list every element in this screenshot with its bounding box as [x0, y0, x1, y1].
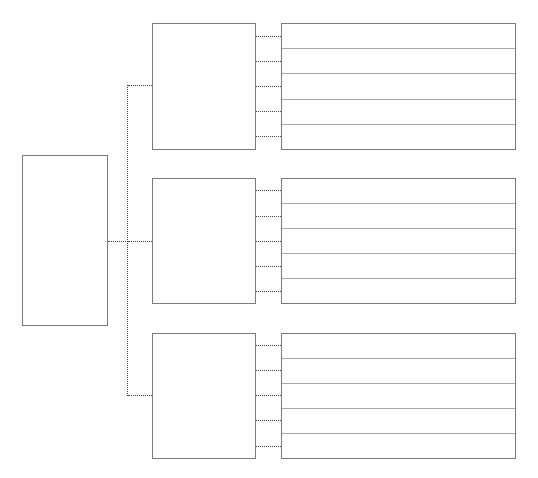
leaf-connector — [256, 266, 281, 267]
root-node — [22, 155, 108, 326]
leaf-row — [282, 384, 515, 409]
leaf-connector — [256, 345, 281, 346]
leaf-connector — [256, 370, 281, 371]
leaf-connector — [256, 111, 281, 112]
leaf-connector — [256, 86, 281, 87]
leaf-connector — [256, 36, 281, 37]
leaf-row — [282, 24, 515, 49]
leaf-row — [282, 125, 515, 149]
leaf-panel-1 — [281, 23, 516, 150]
leaf-panel-2 — [281, 178, 516, 304]
leaf-connector — [256, 291, 281, 292]
leaf-connector — [256, 216, 281, 217]
leaf-row — [282, 334, 515, 359]
leaf-connector — [256, 190, 281, 191]
branch-connector-2 — [128, 241, 152, 242]
root-connector — [108, 241, 128, 242]
leaf-connector — [256, 446, 281, 447]
leaf-connector — [256, 420, 281, 421]
leaf-row — [282, 359, 515, 384]
leaf-row — [282, 279, 515, 303]
branch-node-1 — [152, 23, 256, 150]
leaf-row — [282, 100, 515, 125]
branch-connector-3 — [128, 395, 152, 396]
leaf-row — [282, 179, 515, 204]
leaf-panel-3 — [281, 333, 516, 459]
leaf-row — [282, 254, 515, 279]
branch-node-2 — [152, 178, 256, 304]
leaf-row — [282, 229, 515, 254]
leaf-row — [282, 409, 515, 434]
clipped-title — [48, 0, 148, 3]
leaf-row — [282, 204, 515, 229]
leaf-connector — [256, 61, 281, 62]
leaf-row — [282, 434, 515, 458]
leaf-connector — [256, 241, 281, 242]
branch-connector-1 — [128, 85, 152, 86]
branch-node-3 — [152, 333, 256, 459]
leaf-row — [282, 49, 515, 74]
leaf-connector — [256, 395, 281, 396]
leaf-connector — [256, 136, 281, 137]
leaf-row — [282, 74, 515, 99]
